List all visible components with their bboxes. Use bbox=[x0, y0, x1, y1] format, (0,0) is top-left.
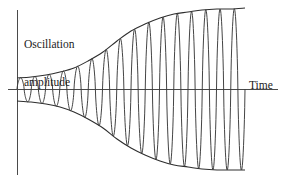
y-axis-label-line-2: amplitude bbox=[24, 76, 74, 89]
y-axis-label-line-1: Oscillation bbox=[24, 38, 74, 51]
x-axis-label: Time bbox=[249, 79, 273, 92]
oscillation-amplitude-figure: Oscillation amplitude Time bbox=[0, 0, 287, 180]
y-axis-label: Oscillation amplitude bbox=[24, 12, 74, 115]
